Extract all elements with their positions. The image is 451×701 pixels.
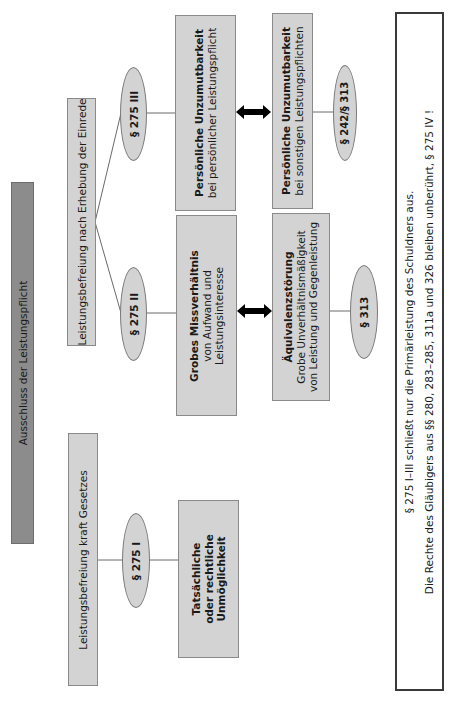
paragraph-313: § 313 — [358, 297, 371, 328]
box-line: Grobe Unverhältnismäßigkeit — [295, 222, 308, 392]
double-arrow-icon — [237, 304, 272, 318]
box-line: oder rechtliche — [202, 534, 215, 624]
box-sonstige-leistungspflichten: Persönliche Unzumutbarkeit bei sonstigen… — [272, 13, 313, 209]
ellipse-242-313: § 242/§ 313 — [333, 65, 357, 161]
root-label: Ausschluss der Leistungspflicht — [16, 281, 29, 446]
box-line: von Leistung und Gegenleistung — [307, 222, 320, 392]
branch-einrede-label: Leistungsbefreiung nach Erhebung der Ein… — [75, 98, 88, 345]
paragraph-275-II: § 275 II — [127, 293, 140, 335]
note-line-2: Die Rechte des Gläubigers aus §§ 280, 28… — [420, 109, 440, 593]
box-title: Grobes Missverhältnis — [188, 250, 201, 382]
box-title: Äquivalenzstörung — [282, 222, 295, 392]
branch-gesetz-label: Leistungsbefreiung kraft Gesetzes — [77, 470, 90, 650]
box-title: Persönliche Unzumutbarkeit — [280, 26, 293, 195]
box-persoenliche-unzumutbarkeit: Persönliche Unzumutbarkeit bei persönlic… — [175, 15, 236, 211]
root-box: Ausschluss der Leistungspflicht — [11, 182, 34, 544]
branch-gesetz-box: Leistungsbefreiung kraft Gesetzes — [68, 433, 98, 686]
box-title: Persönliche Unzumutbarkeit — [193, 28, 206, 199]
paragraph-242-313: § 242/§ 313 — [339, 82, 351, 144]
box-line: Leistungsinteresse — [213, 250, 226, 382]
box-line: Unmöglichkeit — [215, 534, 228, 624]
branch-einrede-box: Leistungsbefreiung nach Erhebung der Ein… — [67, 98, 96, 346]
box-subtitle: bei sonstigen Leistungspflichten — [293, 26, 306, 195]
box-aequivalenzstoerung: Äquivalenzstörung Grobe Unverhältnismäßi… — [272, 213, 330, 401]
double-arrow-icon — [236, 105, 271, 119]
box-unmoeglichkeit: Tatsächliche oder rechtliche Unmöglichke… — [178, 500, 239, 658]
ellipse-275-I: § 275 I — [122, 513, 150, 608]
ellipse-275-III: § 275 III — [120, 67, 147, 161]
note-box: § 275 I–III schließt nur die Primärleist… — [395, 12, 444, 691]
ellipse-313: § 313 — [350, 265, 378, 359]
ellipse-275-II: § 275 II — [120, 267, 147, 361]
box-line: Tatsächliche — [190, 534, 203, 624]
note-line-1: § 275 I–III schließt nur die Primärleist… — [400, 109, 420, 593]
box-line: von Aufwand und — [200, 250, 213, 382]
paragraph-275-III: § 275 III — [127, 91, 140, 137]
paragraph-275-I: § 275 I — [130, 541, 143, 579]
box-grobes-missverhaeltnis: Grobes Missverhältnis von Aufwand und Le… — [176, 215, 237, 416]
box-subtitle: bei persönlicher Leistungspflicht — [206, 28, 219, 199]
